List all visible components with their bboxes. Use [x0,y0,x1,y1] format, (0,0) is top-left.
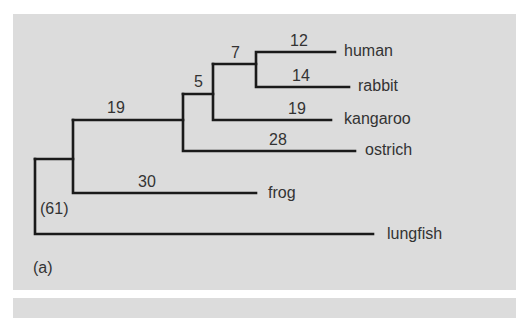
tetrapod-node [73,120,256,193]
taxon-label-ostrich: ostrich [365,141,412,158]
panel-label: (a) [33,259,53,276]
mammal-node [213,64,331,120]
branch-length-internal-7: 7 [231,44,240,61]
branch-length-frog: 30 [138,173,156,190]
branch-length-kangaroo: 19 [288,100,306,117]
taxon-label-kangaroo: kangaroo [344,110,411,127]
branch-length-internal-19: 19 [107,99,125,116]
taxon-label-frog: frog [268,184,296,201]
branch-length-ostrich: 28 [269,131,287,148]
branch-length-lungfish: (61) [40,200,68,217]
branch-length-rabbit: 14 [292,67,310,84]
taxon-label-lungfish: lungfish [387,225,442,242]
taxon-label-rabbit: rabbit [358,77,399,94]
root-branch [35,159,373,234]
taxon-label-human: human [344,42,393,59]
branch-length-human: 12 [290,32,308,49]
branch-length-internal-5: 5 [194,73,203,90]
